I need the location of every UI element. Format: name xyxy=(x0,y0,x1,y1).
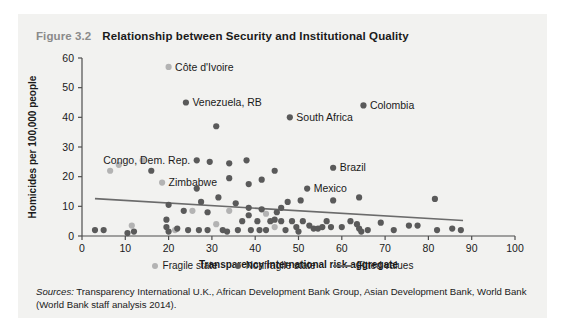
data-point xyxy=(215,194,221,200)
data-point-label: South Africa xyxy=(296,111,353,123)
data-point xyxy=(226,175,232,181)
data-point xyxy=(406,223,412,229)
data-point-label: Côte d'Ivoire xyxy=(175,61,234,73)
data-point xyxy=(213,221,219,227)
data-point xyxy=(226,208,232,214)
data-point xyxy=(360,102,366,108)
data-point xyxy=(347,218,353,224)
data-point xyxy=(259,177,265,183)
data-point xyxy=(330,165,336,171)
x-tick-label: 30 xyxy=(206,242,218,254)
data-point xyxy=(166,228,172,234)
data-point xyxy=(259,206,265,212)
data-point xyxy=(330,197,336,203)
data-point xyxy=(246,212,252,218)
data-point xyxy=(285,199,291,205)
y-tick-label: 0 xyxy=(68,230,74,242)
data-point-label: Congo, Dem. Rep. xyxy=(103,154,190,166)
legend-label-nonfragile: Nonfragile state xyxy=(246,260,316,271)
data-point-label: Venezuela, RB xyxy=(192,96,261,108)
nonfragile-marker-icon xyxy=(235,263,241,269)
x-tick-label: 60 xyxy=(336,242,348,254)
data-point xyxy=(194,185,200,191)
data-point xyxy=(233,200,239,206)
x-tick-label: 70 xyxy=(379,242,391,254)
data-point xyxy=(282,227,288,233)
figure-panel: Figure 3.2 Relationship between Security… xyxy=(18,14,547,318)
data-point xyxy=(278,205,284,211)
data-point xyxy=(300,218,306,224)
legend-label-fragile: Fragile state xyxy=(163,260,218,271)
data-point xyxy=(159,180,165,186)
data-point xyxy=(204,209,210,215)
data-point xyxy=(204,227,210,233)
data-point xyxy=(174,225,180,231)
data-point xyxy=(272,217,278,223)
y-tick-label: 30 xyxy=(62,141,74,153)
data-point xyxy=(246,181,252,187)
data-point xyxy=(263,227,269,233)
data-point xyxy=(131,228,137,234)
x-tick-label: 40 xyxy=(249,242,261,254)
legend-item-nonfragile: Nonfragile state xyxy=(235,260,316,271)
sources-note: Sources: Transparency International U.K.… xyxy=(36,285,533,312)
y-tick-label: 40 xyxy=(62,111,74,123)
data-point-label: Mexico xyxy=(314,182,347,194)
x-tick-label: 20 xyxy=(163,242,175,254)
figure-number: Figure 3.2 xyxy=(36,30,91,42)
data-point xyxy=(272,224,278,230)
data-point xyxy=(243,157,249,163)
data-point xyxy=(278,218,284,224)
data-point xyxy=(254,218,260,224)
data-point xyxy=(239,218,245,224)
data-point xyxy=(163,217,169,223)
plot-svg: 01020304050600102030405060708090100Homic… xyxy=(18,50,547,272)
data-point xyxy=(414,223,420,229)
data-point xyxy=(181,208,187,214)
figure-title: Relationship between Security and Instit… xyxy=(102,30,408,42)
data-point xyxy=(319,224,325,230)
data-point xyxy=(263,211,269,217)
data-point xyxy=(324,218,330,224)
data-point xyxy=(272,168,278,174)
data-point xyxy=(432,196,438,202)
data-point xyxy=(235,227,241,233)
data-point-label: Colombia xyxy=(370,99,415,111)
data-point xyxy=(189,208,195,214)
x-tick-label: 0 xyxy=(79,242,85,254)
data-point xyxy=(226,160,232,166)
y-tick-label: 50 xyxy=(62,81,74,93)
data-point xyxy=(185,227,191,233)
data-point xyxy=(356,194,362,200)
data-point xyxy=(246,205,252,211)
data-point xyxy=(391,227,397,233)
fragile-marker-icon xyxy=(152,263,158,269)
data-point xyxy=(124,230,130,236)
data-point xyxy=(339,224,345,230)
data-point xyxy=(183,99,189,105)
data-point-label: Brazil xyxy=(340,161,366,173)
fitted-line-icon xyxy=(333,265,352,267)
data-point xyxy=(207,159,213,165)
data-point xyxy=(166,64,172,70)
data-point xyxy=(287,114,293,120)
y-axis-title: Homicides per 100,000 people xyxy=(27,75,38,218)
data-point xyxy=(256,227,262,233)
legend-item-fitted: Fitted values xyxy=(333,260,414,271)
data-point xyxy=(295,228,301,234)
data-point xyxy=(166,202,172,208)
data-point xyxy=(129,223,135,229)
legend-label-fitted: Fitted values xyxy=(357,260,414,271)
x-tick-label: 100 xyxy=(506,242,524,254)
data-point xyxy=(358,228,364,234)
data-point xyxy=(449,225,455,231)
y-tick-label: 20 xyxy=(62,170,74,182)
data-point xyxy=(458,227,464,233)
data-point xyxy=(378,220,384,226)
data-point xyxy=(196,227,202,233)
x-tick-label: 10 xyxy=(119,242,131,254)
sources-prefix: Sources: xyxy=(36,286,74,297)
data-point xyxy=(213,123,219,129)
x-tick-label: 50 xyxy=(293,242,305,254)
data-point xyxy=(101,227,107,233)
